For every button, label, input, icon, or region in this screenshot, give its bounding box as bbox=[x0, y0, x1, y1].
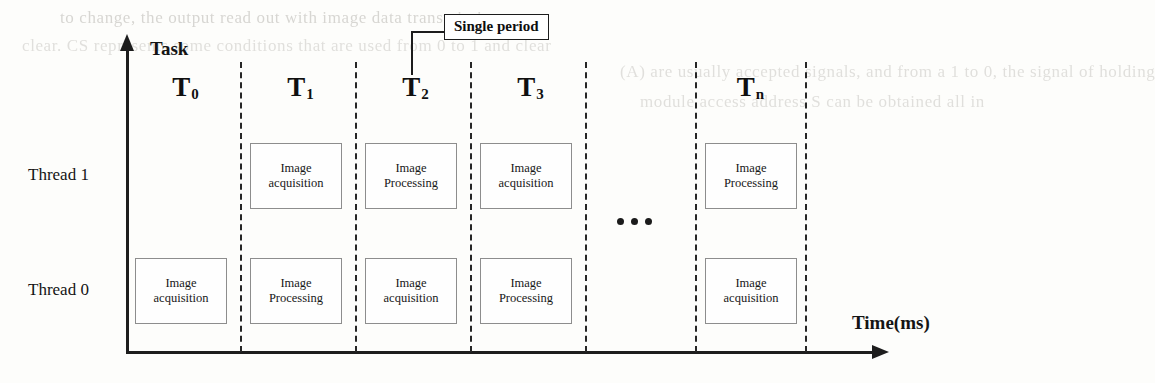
period-header-t0: T0 bbox=[145, 74, 225, 101]
task-box-line1: Image bbox=[735, 276, 766, 291]
task-box-line1: Image bbox=[395, 161, 426, 176]
period-separator-6 bbox=[805, 62, 807, 352]
task-box-line1: Image bbox=[395, 276, 426, 291]
task-box-line2: acquisition bbox=[269, 176, 324, 191]
callout-leader-horizontal bbox=[411, 31, 446, 33]
task-box-line2: acquisition bbox=[384, 291, 439, 306]
period-header-t3-letter: T bbox=[517, 72, 535, 102]
row-label-thread-1: Thread 1 bbox=[28, 165, 89, 185]
single-period-callout: Single period bbox=[444, 14, 549, 40]
task-box-thread0-t2: Image acquisition bbox=[365, 258, 457, 324]
continuation-ellipsis-icon bbox=[617, 218, 652, 225]
task-box-line1: Image bbox=[735, 161, 766, 176]
period-header-t1: T1 bbox=[260, 74, 340, 101]
task-box-line2: Processing bbox=[269, 291, 323, 306]
task-box-line2: Processing bbox=[724, 176, 778, 191]
period-separator-5 bbox=[695, 62, 697, 352]
period-separator-4 bbox=[585, 62, 587, 352]
ellipsis-dot bbox=[617, 218, 624, 225]
callout-leader-vertical bbox=[411, 31, 413, 75]
time-axis-arrow-icon bbox=[872, 345, 889, 359]
period-header-t1-letter: T bbox=[287, 72, 305, 102]
task-box-line1: Image bbox=[280, 161, 311, 176]
task-box-thread1-t3: Image acquisition bbox=[480, 143, 572, 209]
time-axis-line bbox=[126, 351, 878, 354]
period-header-t2: T2 bbox=[375, 74, 455, 101]
task-box-line2: Processing bbox=[384, 176, 438, 191]
task-box-line1: Image bbox=[510, 276, 541, 291]
task-box-thread1-tn: Image Processing bbox=[705, 143, 797, 209]
period-header-t2-letter: T bbox=[402, 72, 420, 102]
period-separator-3 bbox=[470, 62, 472, 352]
period-header-t1-sub: 1 bbox=[306, 86, 314, 102]
task-box-line2: Processing bbox=[499, 291, 553, 306]
background-ghost-text-1: to change, the output read out with imag… bbox=[60, 8, 500, 28]
period-header-t0-sub: 0 bbox=[191, 86, 199, 102]
task-box-thread1-t2: Image Processing bbox=[365, 143, 457, 209]
period-header-t2-sub: 2 bbox=[421, 86, 429, 102]
task-box-line2: acquisition bbox=[499, 176, 554, 191]
task-box-thread0-t1: Image Processing bbox=[250, 258, 342, 324]
task-box-thread0-t3: Image Processing bbox=[480, 258, 572, 324]
task-box-thread0-tn: Image acquisition bbox=[705, 258, 797, 324]
background-ghost-text-4: module access address S can be obtained … bbox=[640, 92, 985, 112]
task-box-line2: acquisition bbox=[154, 291, 209, 306]
time-axis-label: Time(ms) bbox=[852, 312, 930, 334]
background-ghost-text-3: (A) are usually accepted signals, and fr… bbox=[620, 62, 1155, 82]
task-box-line1: Image bbox=[165, 276, 196, 291]
task-axis-label: Task bbox=[150, 38, 188, 60]
period-separator-2 bbox=[355, 62, 357, 352]
period-header-t0-letter: T bbox=[172, 72, 190, 102]
period-separator-1 bbox=[240, 62, 242, 352]
period-header-tn-letter: T bbox=[737, 72, 755, 102]
task-box-line1: Image bbox=[280, 276, 311, 291]
period-header-tn: Tn bbox=[710, 74, 790, 101]
task-box-thread1-t1: Image acquisition bbox=[250, 143, 342, 209]
task-box-line1: Image bbox=[510, 161, 541, 176]
row-label-thread-0: Thread 0 bbox=[28, 280, 89, 300]
task-axis-arrow-icon bbox=[120, 34, 134, 51]
period-header-tn-sub: n bbox=[756, 86, 764, 102]
ellipsis-dot bbox=[631, 218, 638, 225]
task-box-line2: acquisition bbox=[724, 291, 779, 306]
task-box-thread0-t0: Image acquisition bbox=[135, 258, 227, 324]
ellipsis-dot bbox=[645, 218, 652, 225]
task-axis-line bbox=[126, 48, 129, 354]
period-header-t3: T3 bbox=[490, 74, 570, 101]
period-header-t3-sub: 3 bbox=[536, 86, 544, 102]
